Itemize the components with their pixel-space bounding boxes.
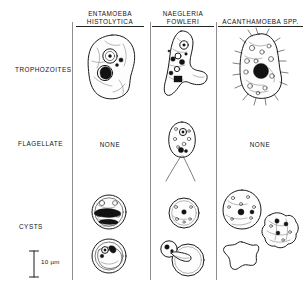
column-header-naegleria-line1: NAEGLERIA xyxy=(152,10,214,18)
amoeba-comparison-figure: ENTAMOEBA HISTOLYTICA NAEGLERIA FOWLERI … xyxy=(0,0,305,288)
row-label-trophozoites: TROPHOZOITES xyxy=(15,66,71,73)
naegleria-cyst-excysting xyxy=(161,241,204,276)
cell-cysts-acanthamoeba xyxy=(220,188,300,280)
column-header-naegleria-line2: FOWLERI xyxy=(152,18,214,27)
row-label-cysts: CYSTS xyxy=(19,223,43,230)
entamoeba-cyst-lower xyxy=(92,239,126,273)
cell-flagellate-naegleria xyxy=(163,120,203,182)
scale-bar-label: 10 µm xyxy=(41,258,60,265)
column-header-naegleria: NAEGLERIA FOWLERI xyxy=(152,10,214,27)
naegleria-cyst-upper xyxy=(169,198,199,228)
column-header-acanthamoeba: ACANTHAMOEBA SPP. xyxy=(218,18,303,27)
cell-trophozoite-entamoeba xyxy=(79,32,145,104)
acanthamoeba-cyst-round xyxy=(223,190,261,229)
cell-flagellate-acanthamoeba-none: NONE xyxy=(220,141,300,148)
column-header-acanthamoeba-line1: ACANTHAMOEBA SPP. xyxy=(218,18,303,27)
row-label-flagellate: FLAGELLATE xyxy=(18,140,63,147)
acanthamoeba-cyst-stellate xyxy=(224,242,259,270)
column-header-entamoeba: ENTAMOEBA HISTOLYTICA xyxy=(76,10,144,27)
cell-trophozoite-acanthamoeba xyxy=(228,28,294,108)
column-header-entamoeba-line1: ENTAMOEBA xyxy=(76,10,144,18)
column-header-entamoeba-line2: HISTOLYTICA xyxy=(76,18,144,27)
scale-bar-glyph xyxy=(28,249,42,279)
cell-cysts-entamoeba xyxy=(85,192,135,280)
divider-mid-2 xyxy=(216,22,217,280)
cell-flagellate-entamoeba-none: NONE xyxy=(76,141,144,148)
entamoeba-cyst-upper xyxy=(92,195,126,229)
cell-trophozoite-naegleria xyxy=(157,29,211,107)
divider-mid-1 xyxy=(150,22,151,280)
divider-left xyxy=(72,22,73,280)
acanthamoeba-cyst-wrinkled xyxy=(262,213,298,248)
cell-cysts-naegleria xyxy=(158,194,210,280)
